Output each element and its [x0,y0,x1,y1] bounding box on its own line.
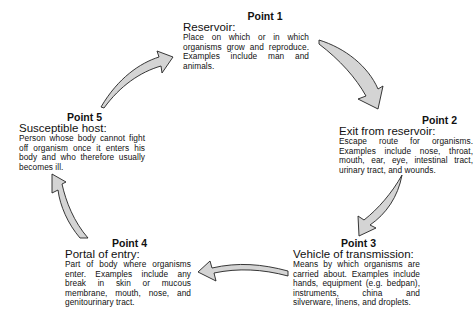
point-description: Person whose body cannot fight off organ… [19,134,145,172]
curved-arrow-icon-3-to-4 [198,261,288,281]
curved-arrow-icon-5-to-1 [101,51,173,108]
point-description: Escape route for organisms. Examples inc… [339,137,473,175]
point-description: Means by which organisms are carried abo… [293,260,420,308]
point-3-vehicle-of-transmission: Point 3 Vehicle of transmission: Means b… [293,238,463,308]
point-description: Place on which or in which organisms gro… [183,33,309,71]
curved-arrow-icon-2-to-3 [358,175,402,236]
point-2-exit-from-reservoir: Point 2 Exit from reservoir: Escape rout… [339,115,475,175]
point-description: Part of body where organisms enter. Exam… [65,260,191,308]
point-5-susceptible-host: Point 5 Susceptible host: Person whose b… [19,112,159,172]
point-1-reservoir: Point 1 Reservoir: Place on which or in … [183,11,331,71]
curved-arrow-icon-4-to-5 [52,174,88,238]
point-4-portal-of-entry: Point 4 Portal of entry: Part of body wh… [65,238,195,308]
